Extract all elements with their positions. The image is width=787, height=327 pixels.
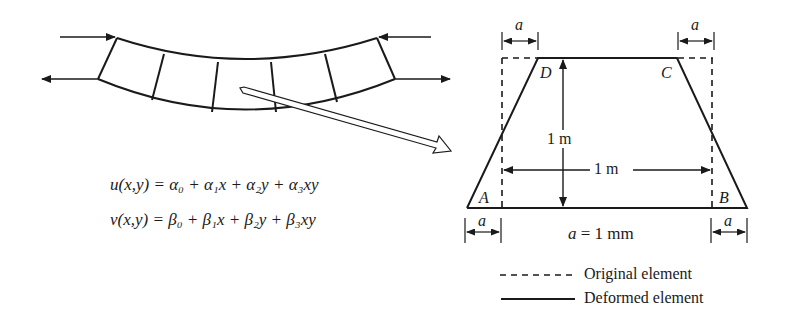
height-label: 1 m [545,130,573,148]
width-label: 1 m [594,160,618,178]
corner-label-d: D [540,64,552,82]
corner-label-b: B [719,189,729,207]
offset-label-bottom-left: a [478,212,486,230]
original-element [502,58,713,208]
u-displacement-equation: u(x,y) = α₀ + α₁x + α₂y + α₃xy [110,175,319,195]
zoom-pointer-arrow [240,87,451,153]
deformed-element [467,58,747,208]
v-displacement-equation: v(x,y) = β₀ + β₁x + β₂y + β₃xy [110,210,316,230]
bent-beam [98,38,395,112]
legend-original: Original element [584,265,692,283]
a-value-label: a = 1 mm [568,224,634,244]
offset-label-top-right: a [691,16,699,34]
offset-dimensions [465,32,747,243]
legend-lines [500,275,575,299]
corner-label-c: C [661,64,672,82]
offset-label-bottom-right: a [724,212,732,230]
corner-label-a: A [479,189,489,207]
offset-label-top-left: a [515,16,523,34]
legend-deformed: Deformed element [584,289,704,307]
